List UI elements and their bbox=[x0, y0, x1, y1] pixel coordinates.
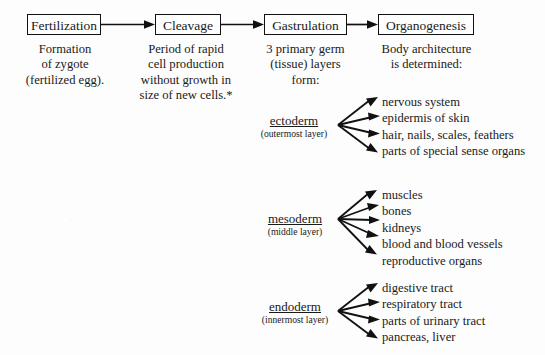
derivative-item: hair, nails, scales, feathers bbox=[382, 127, 525, 143]
caption-line: (fertilized egg). bbox=[2, 73, 128, 88]
stage-box-cleavage: Cleavage bbox=[155, 14, 221, 35]
derivative-item: muscles bbox=[382, 187, 503, 203]
derivative-item: bones bbox=[382, 203, 503, 219]
caption-line: form: bbox=[247, 73, 364, 88]
germ-layer-name-mesoderm: mesoderm bbox=[253, 211, 337, 226]
stage-box-organogenesis: Organogenesis bbox=[378, 14, 474, 35]
diagram-canvas: Fertilization Cleavage Gastrulation Orga… bbox=[0, 0, 545, 355]
stage-caption-cleavage: Period of rapid cell production without … bbox=[122, 42, 250, 104]
germ-layer-name-ectoderm: ectoderm bbox=[255, 113, 333, 128]
stage-label-cleavage: Cleavage bbox=[163, 18, 213, 33]
caption-line: cell production bbox=[122, 57, 250, 72]
germ-layer-sublabel-mesoderm: (middle layer) bbox=[252, 226, 338, 238]
caption-line: without growth in bbox=[122, 73, 250, 88]
derivative-item: epidermis of skin bbox=[382, 110, 525, 126]
caption-line: 3 primary germ bbox=[247, 42, 364, 57]
derivative-item: respiratory tract bbox=[382, 296, 485, 312]
derivative-item: kidneys bbox=[382, 220, 503, 236]
derivative-list-endoderm: digestive tract respiratory tract parts … bbox=[382, 280, 485, 346]
stage-box-gastrulation: Gastrulation bbox=[264, 14, 347, 35]
fan-arrows-mesoderm bbox=[336, 189, 382, 257]
caption-line: is determined: bbox=[369, 57, 484, 72]
caption-line: Body architecture bbox=[369, 42, 484, 57]
caption-line: size of new cells.* bbox=[122, 88, 250, 103]
caption-line: of zygote bbox=[2, 57, 128, 72]
derivative-item: nervous system bbox=[382, 94, 525, 110]
connector-arrow-fertilization-to-cleavage bbox=[101, 18, 157, 31]
germ-layer-name-endoderm: endoderm bbox=[255, 299, 335, 314]
germ-layer-sublabel-endoderm: (innermost layer) bbox=[247, 314, 343, 326]
derivative-item: parts of urinary tract bbox=[382, 313, 485, 329]
stage-caption-organogenesis: Body architecture is determined: bbox=[369, 42, 484, 73]
stage-box-fertilization: Fertilization bbox=[27, 14, 101, 35]
derivative-item: pancreas, liver bbox=[382, 329, 485, 345]
derivative-list-mesoderm: muscles bones kidneys blood and blood ve… bbox=[382, 187, 503, 269]
derivative-item: blood and blood vessels bbox=[382, 236, 503, 252]
caption-line: Period of rapid bbox=[122, 42, 250, 57]
connector-arrow-cleavage-to-gastrulation bbox=[221, 18, 266, 31]
fan-arrows-endoderm bbox=[336, 282, 382, 340]
germ-layer-sublabel-ectoderm: (outermost layer) bbox=[249, 128, 339, 140]
derivative-item: reproductive organs bbox=[382, 253, 503, 269]
derivative-item: parts of special sense organs bbox=[382, 143, 525, 159]
stage-label-organogenesis: Organogenesis bbox=[386, 18, 466, 33]
stage-label-fertilization: Fertilization bbox=[31, 18, 97, 33]
caption-line: Formation bbox=[2, 42, 128, 57]
caption-line: (tissue) layers bbox=[247, 57, 364, 72]
stage-label-gastrulation: Gastrulation bbox=[272, 18, 339, 33]
fan-arrows-ectoderm bbox=[336, 96, 382, 154]
derivative-item: digestive tract bbox=[382, 280, 485, 296]
connector-arrow-gastrulation-to-organogenesis bbox=[347, 18, 380, 31]
stage-caption-gastrulation: 3 primary germ (tissue) layers form: bbox=[247, 42, 364, 88]
derivative-list-ectoderm: nervous system epidermis of skin hair, n… bbox=[382, 94, 525, 160]
stage-caption-fertilization: Formation of zygote (fertilized egg). bbox=[2, 42, 128, 88]
